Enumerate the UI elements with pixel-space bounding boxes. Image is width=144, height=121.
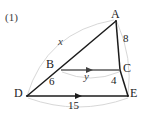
vertex-label-e: E — [130, 87, 137, 99]
variable-label-x: x — [58, 36, 63, 47]
vertex-label-b: B — [46, 58, 54, 70]
vertex-label-c: C — [123, 62, 131, 74]
vertex-dot-d — [26, 95, 28, 97]
measure-label-ac: 8 — [123, 33, 129, 44]
measure-label-ce: 4 — [111, 75, 117, 86]
vertex-dot-e — [127, 95, 129, 97]
variable-label-y: y — [84, 71, 89, 82]
measure-label-de: 15 — [68, 100, 79, 111]
edge-da — [27, 21, 116, 96]
vertex-label-a: A — [111, 8, 120, 20]
vertex-label-d: D — [14, 87, 23, 99]
geometry-figure: (1) A B C D E 8 6 — [0, 0, 144, 121]
measure-label-db: 6 — [49, 76, 55, 87]
